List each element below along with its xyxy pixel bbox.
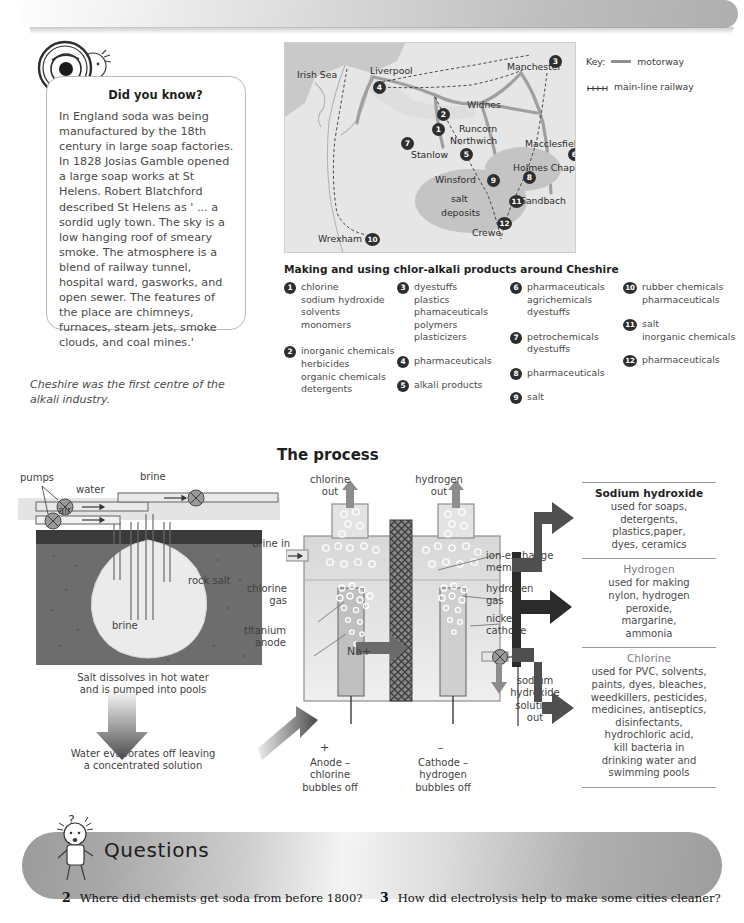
question-text: Where did chemists get soda from before … (80, 891, 363, 905)
products-panel: Sodium hydroxide used for soaps, deterge… (582, 482, 716, 788)
product-list-column-2: 3 dyestuffsplasticsphamaceuticalspolymer… (397, 281, 510, 415)
map-place-stanlow: Stanlow (411, 149, 448, 160)
label-hydrogen-out: hydrogen out (408, 474, 470, 499)
map-place-holmes-chapel: Holmes Chapel (513, 162, 576, 173)
cheshire-map: Irish Sea Liverpool Manchester Widnes Ru… (284, 42, 576, 253)
map-marker-12[interactable]: 12 (497, 217, 512, 230)
list-item: 6 pharmaceuticalsagrichemicalsdyestuffs (510, 281, 623, 319)
map-marker-5[interactable]: 5 (460, 148, 473, 161)
label-air: air (58, 505, 71, 517)
legend-row-motorway: Key: motorway (586, 56, 736, 67)
label-hydrogen-gas: hydrogen gas (486, 583, 533, 608)
map-label-irish-sea: Irish Sea (297, 69, 337, 80)
process-section-title: The process (277, 446, 379, 464)
questions-heading: Questions (104, 838, 209, 862)
product-uses: used for making nylon, hydrogen peroxide… (582, 577, 716, 640)
product-uses: used for PVC, solvents, paints, dyes, bl… (582, 666, 716, 779)
map-marker-2[interactable]: 2 (437, 108, 450, 121)
product-uses: used for soaps, detergents, plastics,pap… (582, 501, 716, 551)
product-list-column-1: 1 chlorinesodium hydroxidesolventsmonome… (284, 281, 397, 415)
list-item: 5 alkali products (397, 379, 510, 392)
product-list-title: Making and using chlor-alkali products a… (284, 263, 619, 275)
map-place-widnes: Widnes (467, 99, 501, 110)
label-cathode-sign: – (438, 742, 444, 754)
list-item-terms: pharmaceuticalsagrichemicalsdyestuffs (527, 281, 605, 319)
label-brine-top: brine (140, 471, 166, 483)
list-item: 11 saltinorganic chemicals (623, 318, 736, 343)
product-list-column-4: 10 rubber chemicalspharmaceuticals 11 sa… (623, 281, 736, 415)
label-sodium-ion: Na+ (347, 646, 371, 658)
product-section-chlorine: Chlorine used for PVC, solvents, paints,… (582, 647, 716, 787)
map-place-crewe: Crewe (472, 227, 501, 238)
list-item-number: 3 (397, 282, 409, 294)
label-pumps: pumps (20, 472, 54, 484)
caption-cathode: Cathode – hydrogen bubbles off (408, 757, 478, 794)
list-item-terms: petrochemicalsdyestuffs (527, 331, 599, 356)
question-number: 2 (62, 890, 71, 905)
map-marker-4[interactable]: 4 (373, 81, 386, 94)
list-item-number: 9 (510, 392, 522, 404)
map-label-salt-deposits-1: salt (451, 193, 468, 204)
list-item: 7 petrochemicalsdyestuffs (510, 331, 623, 356)
product-name: Sodium hydroxide (582, 487, 716, 499)
question-number: 3 (380, 890, 389, 905)
list-item: 3 dyestuffsplasticsphamaceuticalspolymer… (397, 281, 510, 344)
product-section-sodium-hydroxide: Sodium hydroxide used for soaps, deterge… (582, 482, 716, 558)
top-banner-shadow (30, 27, 734, 34)
label-water: water (76, 484, 105, 496)
legend-motorway-label: motorway (637, 56, 684, 67)
question-text: How did electrolysis help to make some c… (398, 891, 721, 905)
list-item: 12 pharmaceuticals (623, 354, 736, 367)
map-place-winsford: Winsford (435, 174, 476, 185)
did-you-know-box: Did you know? In England soda was being … (46, 76, 246, 330)
label-chlorine-out: chlorine out (302, 474, 358, 499)
list-item-number: 10 (623, 282, 637, 294)
list-item-terms: alkali products (414, 379, 483, 392)
map-marker-11[interactable]: 11 (509, 195, 524, 208)
list-item-terms: rubber chemicalspharmaceuticals (642, 281, 723, 306)
label-brine-cavity: brine (112, 620, 138, 632)
map-place-runcorn: Runcorn (459, 123, 497, 134)
list-item-number: 1 (284, 282, 296, 294)
list-item-number: 4 (397, 356, 409, 368)
list-item: 1 chlorinesodium hydroxidesolventsmonome… (284, 281, 397, 331)
label-anode-sign: + (320, 742, 329, 754)
map-marker-1[interactable]: 1 (432, 123, 445, 136)
label-nickel-cathode: nickel cathode (486, 613, 527, 638)
map-marker-9[interactable]: 9 (487, 174, 500, 187)
motorway-line-icon (611, 60, 631, 63)
map-place-liverpool: Liverpool (370, 65, 413, 76)
product-name: Hydrogen (582, 563, 716, 575)
label-rock-salt: rock salt (188, 575, 231, 587)
list-item-terms: pharmaceuticals (414, 355, 492, 368)
list-item-terms: pharmaceuticals (527, 367, 605, 380)
label-sodium-hydroxide-out: sodium hydroxide solution out (504, 675, 566, 725)
map-marker-10[interactable]: 10 (365, 233, 380, 246)
map-place-macclesfield: Macclesfield (525, 138, 576, 149)
list-item: 10 rubber chemicalspharmaceuticals (623, 281, 736, 306)
list-item: 9 salt (510, 391, 623, 404)
list-item-number: 2 (284, 346, 296, 358)
map-place-sandbach: Sandbach (520, 195, 566, 206)
map-marker-3[interactable]: 3 (549, 55, 562, 68)
list-item-number: 8 (510, 368, 522, 380)
map-marker-7[interactable]: 7 (401, 137, 414, 150)
legend-row-railway: main-line railway (586, 81, 736, 92)
did-you-know-title: Did you know? (77, 88, 234, 102)
caption-step-1: Salt dissolves in hot water and is pumpe… (58, 672, 228, 697)
railway-line-icon (586, 83, 608, 90)
product-list-column-3: 6 pharmaceuticalsagrichemicalsdyestuffs … (510, 281, 623, 415)
map-marker-8[interactable]: 8 (523, 171, 536, 184)
top-decorative-banner (22, 0, 738, 28)
map-legend: Key: motorway main-line railway (586, 56, 736, 106)
map-marker-6[interactable]: 6 (568, 148, 576, 161)
list-item-terms: salt (527, 391, 544, 404)
label-ion-exchange-membrane: ion-exchange membrane (486, 550, 553, 575)
textbook-page: Did you know? In England soda was being … (0, 0, 744, 923)
map-place-northwich: Northwich (450, 135, 497, 146)
map-place-wrexham: Wrexham (318, 233, 362, 244)
list-item-terms: saltinorganic chemicals (642, 318, 735, 343)
list-item-number: 11 (623, 319, 637, 331)
list-item: 2 inorganic chemicalsherbicidesorganic c… (284, 345, 397, 395)
list-item-terms: dyestuffsplasticsphamaceuticalspolymersp… (414, 281, 488, 344)
